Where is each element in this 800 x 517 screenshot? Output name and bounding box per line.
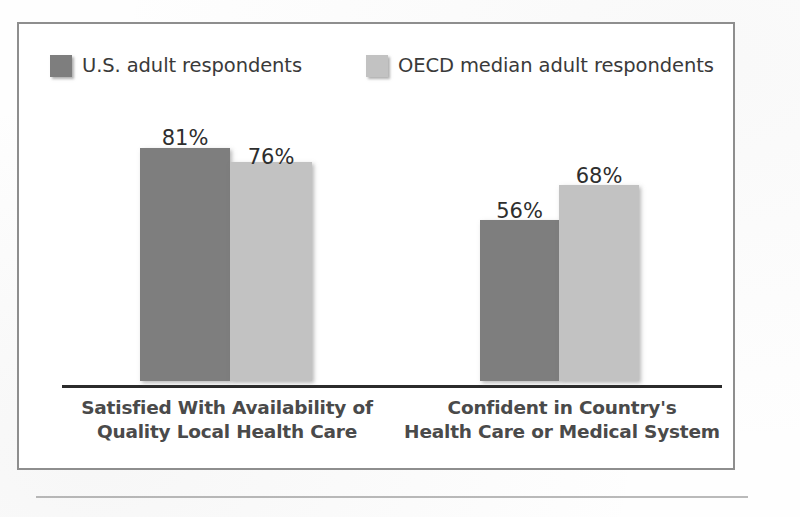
- category-label-group1-line1: Satisfied With Availability of: [57, 396, 397, 420]
- bar-value-group2-us-adult-respondents: 56%: [480, 199, 559, 223]
- category-label-group1: Satisfied With Availability of Quality L…: [57, 396, 397, 443]
- category-label-group2-line2: Health Care or Medical System: [397, 420, 727, 444]
- bar-value-group2-oecd-median-adult-respondents: 68%: [559, 164, 639, 188]
- bar-group2-oecd-median-adult-respondents[interactable]: [559, 185, 639, 381]
- bar-group1-us-adult-respondents[interactable]: [140, 148, 230, 381]
- baseline-axis: [62, 385, 722, 388]
- bar-group2-us-adult-respondents[interactable]: [480, 220, 559, 381]
- category-label-group2-line1: Confident in Country's: [397, 396, 727, 420]
- plot-area: 81% 76% 56% 68% Satisfied With Availabil…: [19, 24, 733, 468]
- bar-value-group1-us-adult-respondents: 81%: [140, 126, 230, 150]
- page-bottom-rule: [36, 496, 748, 498]
- chart-frame: U.S. adult respondents OECD median adult…: [17, 22, 735, 470]
- category-label-group2: Confident in Country's Health Care or Me…: [397, 396, 727, 443]
- bar-value-group1-oecd-median-adult-respondents: 76%: [230, 145, 312, 169]
- category-label-group1-line2: Quality Local Health Care: [57, 420, 397, 444]
- bar-group1-oecd-median-adult-respondents[interactable]: [230, 162, 312, 381]
